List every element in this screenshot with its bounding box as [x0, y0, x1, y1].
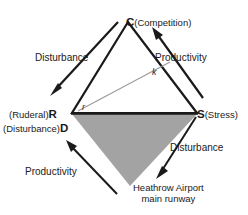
vertex-letter-d: D — [60, 122, 68, 134]
vertex-paren-c: (Competition) — [134, 17, 191, 28]
flow-label-productivity-bottom-left: Productivity — [25, 166, 77, 177]
vertex-paren-d: (Disturbance) — [3, 123, 60, 134]
vertex-letter-s: S — [197, 108, 205, 120]
vertex-paren-s: (Stress) — [205, 109, 238, 120]
csr-triangle-diagram: C(Competition) S(Stress) (Ruderal)R (Dis… — [0, 0, 248, 215]
flow-label-disturbance-top-left: Disturbance — [35, 52, 88, 63]
vertex-label-s: S(Stress) — [197, 104, 238, 122]
vertex-label-d: (Disturbance)D — [3, 118, 68, 136]
vertex-label-c: C(Competition) — [126, 12, 191, 30]
flow-label-productivity-top-right: Productivity — [155, 52, 207, 63]
axis-annotation-r: r — [82, 102, 85, 112]
axis-annotation-k: k — [152, 67, 157, 77]
runway-caption: Heathrow Airport main runway — [133, 183, 204, 205]
flow-label-disturbance-bottom-right: Disturbance — [170, 142, 223, 153]
csr-triangle-outline — [72, 22, 197, 113]
runway-caption-line2: main runway — [133, 194, 204, 205]
